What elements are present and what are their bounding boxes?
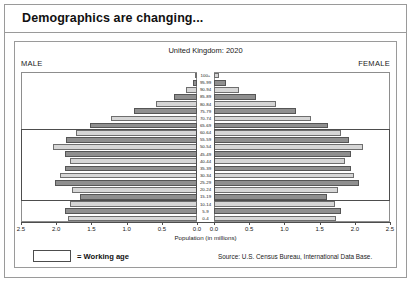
bar-male-100+ xyxy=(195,73,197,79)
x-tick-label: 0.5 xyxy=(245,226,253,232)
bar-male-15-19 xyxy=(80,194,197,200)
x-tick-mark xyxy=(56,222,57,225)
bar-female-20-24 xyxy=(214,187,338,193)
age-group-tick: 40-44 xyxy=(197,158,214,165)
x-tick-mark xyxy=(249,222,250,225)
x-tick-label: 0.0 xyxy=(210,226,218,232)
bar-male-45-49 xyxy=(65,151,197,157)
age-group-tick: 55-59 xyxy=(197,136,214,143)
chart-title: United Kingdom: 2020 xyxy=(15,46,396,55)
male-bar-group xyxy=(21,72,197,222)
working-age-legend-label: = Working age xyxy=(77,252,129,261)
page-title: Demographics are changing... xyxy=(22,11,203,25)
bar-male-95-99 xyxy=(193,80,197,86)
female-axis-label: FEMALE xyxy=(358,59,390,68)
bar-male-35-39 xyxy=(65,166,197,172)
x-tick-label: 2.0 xyxy=(52,226,60,232)
bar-male-75-79 xyxy=(134,108,197,114)
bar-male-90-94 xyxy=(186,87,197,93)
slide-frame: Demographics are changing... United King… xyxy=(4,4,407,278)
x-axis-line xyxy=(21,222,390,223)
age-group-tick: 60-64 xyxy=(197,129,214,136)
x-axis-title: Population (in millions) xyxy=(21,234,390,241)
x-tick-label: 2.5 xyxy=(386,226,394,232)
bar-male-50-54 xyxy=(53,144,197,150)
bar-female-40-44 xyxy=(214,158,345,164)
working-age-legend-swatch xyxy=(33,250,71,262)
bar-male-10-14 xyxy=(70,201,197,207)
bar-male-5-9 xyxy=(65,208,197,214)
male-axis-label: MALE xyxy=(21,59,43,68)
bar-male-85-89 xyxy=(174,94,197,100)
population-pyramid-chart: United Kingdom: 2020 MALE FEMALE 100+95-… xyxy=(14,41,397,268)
bar-female-55-59 xyxy=(214,137,349,143)
x-tick-mark xyxy=(320,222,321,225)
age-group-tick: 90-94 xyxy=(197,86,214,93)
bar-male-60-64 xyxy=(76,130,197,136)
bar-female-70-74 xyxy=(214,116,311,122)
x-tick-label: 1.0 xyxy=(280,226,288,232)
age-group-tick: 50-54 xyxy=(197,143,214,150)
bar-female-100+ xyxy=(214,73,219,79)
bar-male-55-59 xyxy=(66,137,197,143)
x-tick-label: 0.5 xyxy=(158,226,166,232)
x-tick-label: 1.5 xyxy=(87,226,95,232)
age-group-tick: 35-39 xyxy=(197,165,214,172)
age-group-tick: 65-69 xyxy=(197,122,214,129)
bar-female-65-69 xyxy=(214,123,328,129)
x-tick-mark xyxy=(162,222,163,225)
x-tick-label: 2.0 xyxy=(351,226,359,232)
bar-male-0-4 xyxy=(68,216,197,222)
bar-female-50-54 xyxy=(214,144,363,150)
x-tick-mark xyxy=(21,222,22,225)
bar-male-20-24 xyxy=(72,187,197,193)
bar-female-35-39 xyxy=(214,166,351,172)
age-group-tick: 10-14 xyxy=(197,201,214,208)
age-group-tick: 45-49 xyxy=(197,151,214,158)
x-axis: Population (in millions) 2.52.52.02.01.5… xyxy=(21,222,390,244)
bar-female-25-29 xyxy=(214,180,359,186)
bar-male-80-84 xyxy=(156,101,197,107)
age-group-tick: 85-89 xyxy=(197,93,214,100)
x-tick-mark xyxy=(91,222,92,225)
age-group-tick: 25-29 xyxy=(197,179,214,186)
bar-female-75-79 xyxy=(214,108,296,114)
x-tick-mark xyxy=(390,222,391,225)
bar-female-80-84 xyxy=(214,101,276,107)
bar-female-95-99 xyxy=(214,80,226,86)
age-group-tick: 5-9 xyxy=(197,208,214,215)
age-group-tick: 20-24 xyxy=(197,186,214,193)
bar-female-5-9 xyxy=(214,208,341,214)
bar-male-40-44 xyxy=(70,158,197,164)
age-group-tick: 75-79 xyxy=(197,108,214,115)
bar-female-90-94 xyxy=(214,87,239,93)
bar-female-85-89 xyxy=(214,94,256,100)
bar-male-25-29 xyxy=(55,180,197,186)
x-tick-label: 1.5 xyxy=(315,226,323,232)
female-bar-group xyxy=(214,72,390,222)
age-group-tick: 0-4 xyxy=(197,215,214,222)
age-group-tick: 30-34 xyxy=(197,172,214,179)
x-tick-label: 2.5 xyxy=(17,226,25,232)
x-tick-label: 1.0 xyxy=(122,226,130,232)
bar-female-45-49 xyxy=(214,151,351,157)
age-group-tick: 95-99 xyxy=(197,79,214,86)
bar-male-30-34 xyxy=(60,173,197,179)
x-tick-label: 0.0 xyxy=(193,226,201,232)
x-tick-mark xyxy=(127,222,128,225)
bar-female-0-4 xyxy=(214,216,336,222)
title-band: Demographics are changing... xyxy=(5,5,406,33)
bar-female-10-14 xyxy=(214,201,335,207)
bar-female-15-19 xyxy=(214,194,327,200)
plot-area: 100+95-9990-9485-8980-8475-7970-7465-696… xyxy=(21,72,390,222)
age-group-tick: 100+ xyxy=(197,72,214,79)
x-tick-mark xyxy=(197,222,198,225)
x-tick-mark xyxy=(284,222,285,225)
age-group-axis: 100+95-9990-9485-8980-8475-7970-7465-696… xyxy=(197,72,214,222)
bar-male-65-69 xyxy=(90,123,197,129)
x-tick-mark xyxy=(355,222,356,225)
age-group-tick: 15-19 xyxy=(197,193,214,200)
bar-male-70-74 xyxy=(111,116,197,122)
bar-female-60-64 xyxy=(214,130,341,136)
age-group-tick: 80-84 xyxy=(197,101,214,108)
